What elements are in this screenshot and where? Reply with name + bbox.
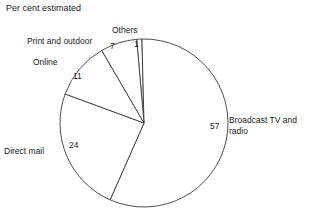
pie-chart-graphic	[0, 0, 313, 216]
pie-chart: Per cent estimated Others Print and outd…	[0, 0, 313, 216]
slice-label-direct-mail: Direct mail	[4, 146, 44, 157]
slice-label-online: Online	[33, 57, 58, 68]
slice-value-direct-mail: 24	[69, 140, 78, 150]
slice-label-print-and-outdoor: Print and outdoor	[27, 36, 92, 47]
slice-value-online: 11	[73, 71, 82, 81]
pie-slice-group	[60, 39, 228, 207]
slice-label-others: Others	[112, 25, 138, 36]
slice-label-broadcast-line2: radio	[229, 126, 248, 136]
slice-value-print-and-outdoor: 7	[110, 41, 115, 51]
slice-label-broadcast-tv-and-radio: Broadcast TV and radio	[229, 115, 297, 136]
slice-value-others: 1	[134, 39, 139, 49]
slice-value-broadcast-tv-and-radio: 57	[210, 121, 219, 131]
slice-label-broadcast-line1: Broadcast TV and	[229, 115, 297, 125]
